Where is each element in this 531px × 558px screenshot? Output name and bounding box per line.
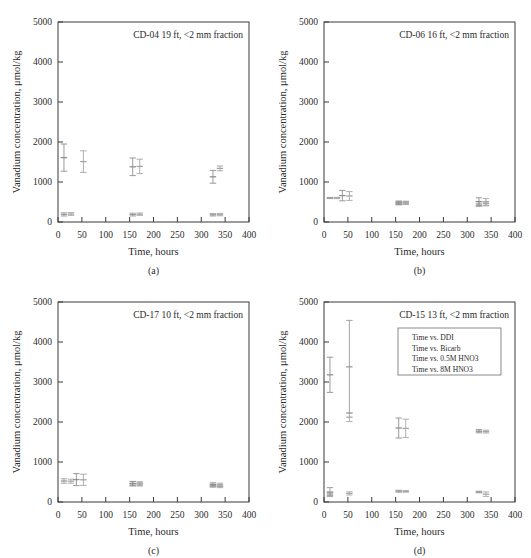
x-tick-label: 50 <box>77 510 87 520</box>
legend-entry-1: Time vs. Bicarb <box>412 344 461 353</box>
x-tick-label: 0 <box>56 510 61 520</box>
data-point <box>217 166 223 171</box>
data-point <box>396 418 402 438</box>
data-point <box>210 214 216 216</box>
x-tick-label: 100 <box>99 230 114 240</box>
x-tick-label: 400 <box>508 510 523 520</box>
y-tick-label: 0 <box>313 217 318 227</box>
data-point <box>68 213 74 216</box>
y-axis-label: Vanadium concentration, μmol/kg <box>11 50 22 194</box>
panel-caption: (d) <box>414 545 426 557</box>
data-point <box>339 190 345 200</box>
panel-c-plot: 0100020003000400050000501001502002503003… <box>0 280 265 558</box>
x-tick-label: 150 <box>389 510 404 520</box>
y-tick-label: 3000 <box>33 97 52 107</box>
x-axis-label: Time, hours <box>128 526 178 537</box>
y-tick-label: 2000 <box>33 137 52 147</box>
data-point <box>61 479 67 483</box>
x-tick-label: 100 <box>99 510 114 520</box>
y-tick-label: 1000 <box>299 457 318 467</box>
y-tick-label: 3000 <box>299 377 318 387</box>
panel-b-plot: 0100020003000400050000501001502002503003… <box>266 0 531 279</box>
y-tick-label: 3000 <box>299 97 318 107</box>
x-tick-label: 250 <box>170 510 185 520</box>
x-tick-label: 300 <box>460 510 475 520</box>
panel-a: 0100020003000400050000501001502002503003… <box>0 0 265 279</box>
panel-title: CD-15 13 ft, <2 mm fraction <box>399 310 509 320</box>
x-tick-label: 50 <box>77 230 87 240</box>
figure-container: 0100020003000400050000501001502002503003… <box>0 0 531 558</box>
y-axis-label: Vanadium concentration, μmol/kg <box>11 330 22 474</box>
data-point <box>73 474 79 486</box>
panel-a-plot: 0100020003000400050000501001502002503003… <box>0 0 265 279</box>
data-point <box>346 413 352 422</box>
data-point <box>346 192 352 201</box>
panel-b: 0100020003000400050000501001502002503003… <box>266 0 531 279</box>
x-tick-label: 350 <box>218 510 233 520</box>
data-series-group <box>327 190 489 206</box>
x-axis-label: Time, hours <box>128 246 178 257</box>
data-point <box>346 492 352 495</box>
data-point <box>476 491 482 493</box>
x-tick-label: 250 <box>436 510 451 520</box>
data-series-group <box>61 144 223 216</box>
panel-d-plot: 0100020003000400050000501001502002503003… <box>266 280 531 558</box>
data-point <box>130 158 136 176</box>
data-point <box>210 170 216 183</box>
data-point <box>137 213 143 215</box>
y-tick-label: 2000 <box>33 417 52 427</box>
x-tick-label: 0 <box>56 230 61 240</box>
x-tick-label: 300 <box>194 510 209 520</box>
panel-title: CD-17 10 ft, <2 mm fraction <box>133 310 243 320</box>
x-tick-label: 250 <box>436 230 451 240</box>
y-tick-label: 5000 <box>299 297 318 307</box>
data-point <box>334 197 340 198</box>
data-point <box>61 144 67 171</box>
x-axis-label: Time, hours <box>394 526 444 537</box>
y-tick-label: 1000 <box>299 177 318 187</box>
data-point <box>327 197 333 198</box>
x-tick-label: 200 <box>146 510 161 520</box>
x-tick-label: 350 <box>484 510 499 520</box>
y-tick-label: 4000 <box>299 57 318 67</box>
data-point <box>483 430 489 433</box>
y-tick-label: 2000 <box>299 137 318 147</box>
x-tick-label: 200 <box>412 510 427 520</box>
x-tick-label: 300 <box>460 230 475 240</box>
x-tick-label: 100 <box>365 510 380 520</box>
y-tick-label: 0 <box>313 497 318 507</box>
x-tick-label: 200 <box>146 230 161 240</box>
data-point <box>130 213 136 216</box>
data-point <box>327 492 333 495</box>
x-tick-label: 50 <box>343 510 353 520</box>
x-tick-label: 350 <box>218 230 233 240</box>
panel-d: 0100020003000400050000501001502002503003… <box>266 280 531 558</box>
x-axis-label: Time, hours <box>394 246 444 257</box>
x-tick-label: 400 <box>242 510 257 520</box>
data-point <box>61 213 67 216</box>
data-point <box>396 490 402 492</box>
y-tick-label: 4000 <box>299 337 318 347</box>
panel-caption: (b) <box>414 265 426 277</box>
y-tick-label: 2000 <box>299 417 318 427</box>
legend-entry-2: Time vs. 0.5M HNO3 <box>412 354 479 363</box>
panel-caption: (a) <box>148 265 159 277</box>
y-tick-label: 4000 <box>33 57 52 67</box>
x-tick-label: 250 <box>170 230 185 240</box>
x-tick-label: 150 <box>123 230 138 240</box>
y-tick-label: 1000 <box>33 457 52 467</box>
data-point <box>346 320 352 413</box>
x-tick-label: 0 <box>322 230 327 240</box>
x-tick-label: 200 <box>412 230 427 240</box>
data-point <box>217 213 223 215</box>
y-tick-label: 0 <box>47 497 52 507</box>
y-tick-label: 0 <box>47 217 52 227</box>
x-tick-label: 100 <box>365 230 380 240</box>
data-point <box>476 430 482 433</box>
data-point <box>80 151 86 173</box>
legend-entry-0: Time vs. DDI <box>412 333 454 342</box>
panel-title: CD-06 16 ft, <2 mm fraction <box>399 30 509 40</box>
x-tick-label: 350 <box>484 230 499 240</box>
y-tick-label: 4000 <box>33 337 52 347</box>
data-point <box>403 419 409 437</box>
